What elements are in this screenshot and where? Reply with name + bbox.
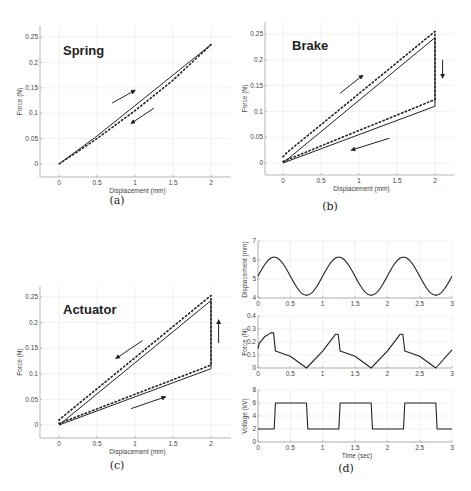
x-tick-label: 2.5 [415, 300, 424, 307]
y-tick-label: 7 [252, 237, 256, 244]
y-tick-label: 0 [252, 438, 256, 445]
x-tick-label: 2 [209, 440, 213, 447]
x-tick-label: 2 [386, 444, 390, 451]
x-axis-label: Displacement (mm) [333, 185, 389, 193]
y-tick-label: 0.2 [247, 338, 256, 345]
x-tick-label: 1 [321, 370, 325, 377]
figure: 00.511.5200.050.10.150.20.25Displacement… [0, 0, 471, 491]
panel-title: Brake [292, 38, 328, 53]
direction-arrow-icon [340, 75, 363, 93]
direction-arrow-icon [351, 138, 389, 150]
direction-arrow-icon [116, 341, 143, 359]
y-tick-label: 2 [252, 425, 256, 432]
y-tick-label: 0.15 [25, 344, 38, 351]
x-tick-label: 2 [386, 300, 390, 307]
y-tick-label: 0.1 [247, 351, 256, 358]
x-tick-label: 0 [256, 444, 260, 451]
y-tick-label: 0 [34, 421, 38, 428]
caption-c: (c) [110, 459, 125, 472]
y-tick-label: 0.05 [25, 396, 38, 403]
y-tick-label: 0.1 [29, 109, 38, 116]
y-tick-label: 0.3 [247, 325, 256, 332]
y-tick-label: 0.15 [250, 82, 263, 89]
x-tick-label: 0.5 [286, 300, 295, 307]
x-tick-label: 3 [450, 444, 454, 451]
caption-b: (b) [322, 200, 338, 213]
y-tick-label: 6 [252, 399, 256, 406]
x-tick-label: 2 [209, 179, 213, 186]
x-tick-label: 0.5 [316, 177, 325, 184]
y-tick-label: 8 [252, 386, 256, 393]
chart-panel-a: 00.511.5200.050.10.150.20.25Displacement… [16, 26, 231, 195]
x-tick-label: 1 [321, 444, 325, 451]
x-tick-label: 1.5 [350, 444, 359, 451]
x-tick-label: 0 [256, 370, 260, 377]
chart-panel-b: 00.511.5200.050.10.150.20.25Displacement… [241, 22, 454, 193]
x-tick-label: 2 [386, 370, 390, 377]
panel-title: Spring [63, 43, 104, 58]
y-tick-label: 4 [252, 412, 256, 419]
x-tick-label: 1 [133, 179, 137, 186]
x-tick-label: 1.5 [350, 370, 359, 377]
y-tick-label: 0.2 [29, 319, 38, 326]
x-tick-label: 1.5 [392, 177, 401, 184]
chart-panel-d3: 00.511.522.5302468Time (sec)Voltage (kV) [241, 386, 454, 460]
x-tick-label: 3 [450, 300, 454, 307]
x-tick-label: 0 [57, 179, 61, 186]
chart-panel-d1: 00.511.522.534567Displacement (mm) [241, 237, 454, 307]
y-axis-label: Force (N) [241, 328, 249, 355]
x-axis-label: Displacement (mm) [109, 448, 165, 456]
x-tick-label: 1.5 [168, 440, 177, 447]
y-tick-label: 0.1 [254, 108, 263, 115]
x-tick-label: 0.5 [286, 370, 295, 377]
panel-title: Actuator [63, 302, 116, 317]
y-tick-label: 5 [252, 275, 256, 282]
y-tick-label: 0.25 [25, 293, 38, 300]
y-tick-label: 0 [34, 160, 38, 167]
y-tick-label: 6 [252, 256, 256, 263]
y-tick-label: 0.25 [250, 30, 263, 37]
x-tick-label: 0 [281, 177, 285, 184]
x-tick-label: 0 [256, 300, 260, 307]
x-tick-label: 3 [450, 370, 454, 377]
x-tick-label: 1.5 [168, 179, 177, 186]
y-axis-label: Displacement (mm) [241, 241, 249, 297]
y-axis-label: Voltage (kV) [241, 398, 249, 433]
y-tick-label: 0 [259, 159, 263, 166]
y-tick-label: 0.25 [25, 33, 38, 40]
chart-panel-d2: 00.511.522.5300.10.20.30.4Force (N) [241, 312, 454, 377]
x-axis-label: Time (sec) [342, 452, 372, 460]
y-axis-label: Force (N) [16, 88, 24, 115]
y-axis-label: Force (N) [241, 85, 249, 112]
y-tick-label: 4 [252, 294, 256, 301]
y-tick-label: 0.4 [247, 312, 256, 319]
y-tick-label: 0.1 [29, 370, 38, 377]
x-tick-label: 2.5 [415, 444, 424, 451]
x-tick-label: 0.5 [92, 440, 101, 447]
caption-d: (d) [338, 462, 354, 475]
x-tick-label: 0.5 [286, 444, 295, 451]
y-tick-label: 0.05 [250, 133, 263, 140]
direction-arrow-icon [112, 90, 135, 103]
caption-a: (a) [109, 194, 124, 207]
y-tick-label: 0.2 [29, 59, 38, 66]
x-tick-label: 2.5 [415, 370, 424, 377]
x-tick-label: 1 [357, 177, 361, 184]
x-tick-label: 1 [133, 440, 137, 447]
direction-arrow-icon [131, 397, 165, 409]
chart-panel-c: 00.511.5200.050.10.150.20.25Displacement… [16, 286, 231, 456]
y-tick-label: 0.2 [254, 56, 263, 63]
y-tick-label: 0 [252, 364, 256, 371]
x-tick-label: 1 [321, 300, 325, 307]
y-tick-label: 0.05 [25, 135, 38, 142]
x-tick-label: 2 [433, 177, 437, 184]
x-tick-label: 0.5 [92, 179, 101, 186]
x-tick-label: 1.5 [350, 300, 359, 307]
x-tick-label: 0 [57, 440, 61, 447]
y-tick-label: 0.15 [25, 84, 38, 91]
y-axis-label: Force (N) [16, 348, 24, 375]
